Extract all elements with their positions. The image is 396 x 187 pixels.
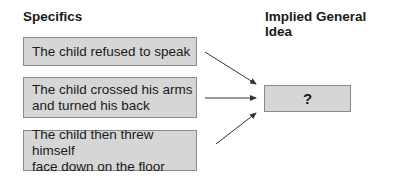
arrow-1-icon [205, 52, 256, 84]
arrow-3-icon [216, 113, 256, 144]
arrows [0, 0, 396, 187]
